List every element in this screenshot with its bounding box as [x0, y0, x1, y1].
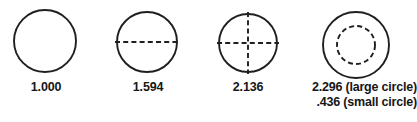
circle-group-plain: 1.000 — [0, 0, 92, 122]
outer-circle — [14, 10, 76, 72]
circle-label-3: 2.136 — [200, 80, 296, 94]
circle-label-2: 1.594 — [100, 80, 196, 94]
circle-plain-art — [0, 0, 92, 80]
circle-horizontal-dashed-art — [100, 0, 196, 80]
circle-label-4-small: .436 (small circle) — [296, 95, 417, 109]
circle-label-1: 1.000 — [0, 80, 92, 94]
inner-dashed-circle — [337, 26, 375, 64]
circle-group-crosshair: 2.136 — [200, 0, 296, 122]
circle-diagram: 1.000 1.594 2.136 2.296 (large circle) .… — [0, 0, 417, 122]
outer-circle — [323, 12, 389, 78]
circle-group-horizontal-dashed: 1.594 — [100, 0, 196, 122]
circle-group-concentric: 2.296 (large circle) .436 (small circle) — [296, 0, 417, 122]
circle-crosshair-art — [200, 0, 296, 80]
circle-label-4-large: 2.296 (large circle) — [296, 80, 417, 94]
circle-concentric-art — [296, 0, 417, 80]
